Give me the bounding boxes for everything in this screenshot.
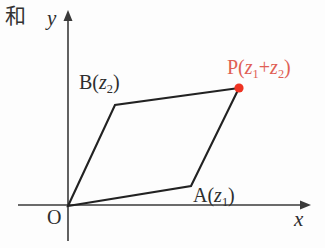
point-b-label-suffix: ) bbox=[113, 71, 120, 93]
point-p-label-variable-1: z bbox=[245, 56, 253, 78]
point-p-label-variable-2: z bbox=[270, 56, 278, 78]
y-axis-arrowhead bbox=[64, 10, 73, 21]
point-a-label: A(z1) bbox=[193, 185, 235, 205]
point-a-label-variable: z bbox=[214, 184, 222, 206]
corner-annotation: 和 bbox=[5, 6, 26, 27]
point-p-label-operator: + bbox=[259, 56, 270, 78]
point-b-label-variable: z bbox=[99, 71, 107, 93]
origin-label: O bbox=[47, 207, 61, 227]
point-p-marker bbox=[234, 83, 243, 92]
point-p-label-prefix: P( bbox=[227, 56, 245, 78]
point-b-label-subscript: 2 bbox=[107, 82, 113, 96]
point-p-label-subscript-1: 1 bbox=[253, 67, 259, 81]
x-axis-label: x bbox=[294, 209, 303, 230]
point-p-label-suffix: ) bbox=[284, 56, 291, 78]
point-b-label-prefix: B( bbox=[79, 71, 99, 93]
point-b-label: B(z2) bbox=[79, 72, 120, 92]
point-p-label-subscript-2: 2 bbox=[278, 67, 284, 81]
point-a-label-subscript: 1 bbox=[222, 195, 228, 209]
point-p-label: P(z1+z2) bbox=[227, 57, 291, 77]
point-a-label-prefix: A( bbox=[193, 184, 214, 206]
x-axis bbox=[18, 201, 311, 210]
y-axis-label: y bbox=[47, 8, 56, 29]
point-a-label-suffix: ) bbox=[228, 184, 235, 206]
complex-plane-figure: 和 y x O B(z2) A(z1) P(z1+z2) bbox=[0, 0, 325, 248]
